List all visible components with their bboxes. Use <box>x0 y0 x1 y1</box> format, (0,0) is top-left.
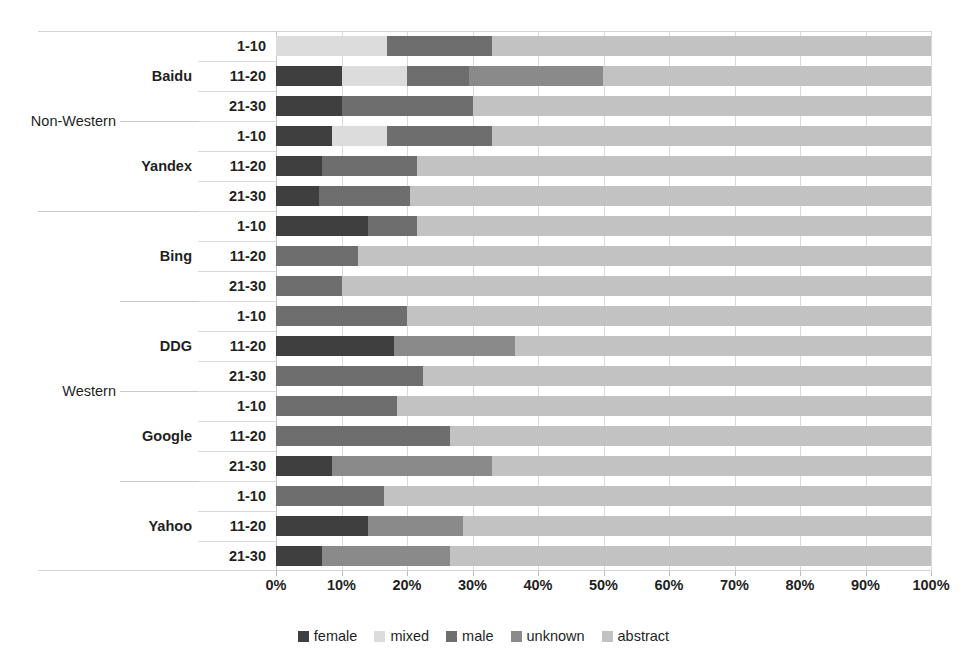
depth-separator <box>198 241 276 242</box>
x-tick-label: 50% <box>574 577 634 593</box>
bar-row <box>276 91 931 121</box>
x-tick-label: 70% <box>705 577 765 593</box>
chart-root: 1-1011-2021-30Baidu1-1011-2021-30YandexN… <box>0 0 967 664</box>
x-axis: 0%10%20%30%40%50%60%70%80%90%100% <box>276 571 931 597</box>
bar-row <box>276 31 931 61</box>
depth-separator <box>198 181 276 182</box>
legend-item-male[interactable]: male <box>446 628 493 644</box>
bar-segment-abstract <box>463 516 931 536</box>
depth-separator <box>198 61 276 62</box>
engine-label-ddg: DDG <box>160 331 192 361</box>
bar-segment-abstract <box>384 486 931 506</box>
legend-item-mixed[interactable]: mixed <box>374 628 429 644</box>
bar-row <box>276 301 931 331</box>
depth-label: 11-20 <box>196 241 266 271</box>
depth-label: 21-30 <box>196 271 266 301</box>
bar-segment-female <box>276 126 332 146</box>
x-tick-mark <box>735 571 736 576</box>
stacked-bar <box>276 426 931 446</box>
depth-label: 11-20 <box>196 421 266 451</box>
bar-segment-abstract <box>473 96 932 116</box>
legend-label: male <box>462 628 493 644</box>
bar-segment-unknown <box>332 456 492 476</box>
legend-swatch-icon <box>298 631 309 642</box>
bar-segment-abstract <box>450 426 931 446</box>
bar-segment-abstract <box>407 306 931 326</box>
bar-segment-abstract <box>492 126 931 146</box>
bar-segment-abstract <box>417 156 931 176</box>
legend-item-unknown[interactable]: unknown <box>511 628 585 644</box>
bar-row <box>276 61 931 91</box>
bar-row <box>276 181 931 211</box>
bar-segment-abstract <box>450 546 931 566</box>
depth-separator <box>198 331 276 332</box>
stacked-bar <box>276 546 931 566</box>
stacked-bar <box>276 396 931 416</box>
bar-row <box>276 151 931 181</box>
bar-row <box>276 451 931 481</box>
stacked-bar <box>276 156 931 176</box>
bar-segment-abstract <box>603 66 931 86</box>
bar-segment-male <box>387 36 492 56</box>
depth-separator <box>198 301 276 302</box>
depth-label: 11-20 <box>196 331 266 361</box>
bar-segment-male <box>276 276 342 296</box>
depth-label: 1-10 <box>196 391 266 421</box>
bar-segment-male <box>319 186 411 206</box>
depth-separator <box>198 271 276 272</box>
depth-label: 21-30 <box>196 181 266 211</box>
depth-separator <box>198 211 276 212</box>
depth-label: 1-10 <box>196 31 266 61</box>
legend-swatch-icon <box>602 631 613 642</box>
legend-item-abstract[interactable]: abstract <box>602 628 670 644</box>
depth-label: 21-30 <box>196 361 266 391</box>
bar-row <box>276 541 931 571</box>
x-tick-mark <box>538 571 539 576</box>
chart-legend: femalemixedmaleunknownabstract <box>0 628 967 644</box>
stacked-bar <box>276 216 931 236</box>
bar-segment-unknown <box>322 546 450 566</box>
bar-segment-abstract <box>342 276 932 296</box>
depth-separator <box>198 511 276 512</box>
bar-row <box>276 241 931 271</box>
x-tick-mark <box>473 571 474 576</box>
bar-segment-abstract <box>492 36 931 56</box>
depth-separator <box>198 481 276 482</box>
bar-row <box>276 511 931 541</box>
bar-segment-male <box>322 156 417 176</box>
legend-swatch-icon <box>511 631 522 642</box>
stacked-bar <box>276 36 931 56</box>
region-label-western: Western <box>62 376 116 406</box>
engine-label-bing: Bing <box>160 241 192 271</box>
stacked-bar <box>276 186 931 206</box>
bar-row <box>276 331 931 361</box>
bar-segment-female <box>276 96 342 116</box>
depth-separator <box>198 151 276 152</box>
bar-segment-mixed <box>342 66 408 86</box>
region-label-non-western: Non-Western <box>31 106 116 136</box>
depth-label: 1-10 <box>196 301 266 331</box>
x-tick-label: 40% <box>508 577 568 593</box>
x-tick-label: 100% <box>901 577 961 593</box>
bar-segment-abstract <box>397 396 931 416</box>
x-tick-mark <box>800 571 801 576</box>
bar-segment-mixed <box>276 36 387 56</box>
bar-segment-male <box>276 246 358 266</box>
legend-swatch-icon <box>374 631 385 642</box>
x-tick-label: 0% <box>246 577 306 593</box>
bar-segment-mixed <box>332 126 388 146</box>
legend-item-female[interactable]: female <box>298 628 358 644</box>
legend-label: abstract <box>618 628 670 644</box>
bar-segment-male <box>276 426 450 446</box>
bar-segment-unknown <box>394 336 515 356</box>
stacked-bar <box>276 276 931 296</box>
x-tick-mark <box>931 571 932 576</box>
depth-label: 1-10 <box>196 211 266 241</box>
bar-segment-abstract <box>358 246 931 266</box>
x-tick-mark <box>276 571 277 576</box>
x-tick-mark <box>604 571 605 576</box>
bar-row <box>276 361 931 391</box>
gridline-100 <box>931 31 932 571</box>
bar-segment-female <box>276 156 322 176</box>
bar-segment-female <box>276 66 342 86</box>
